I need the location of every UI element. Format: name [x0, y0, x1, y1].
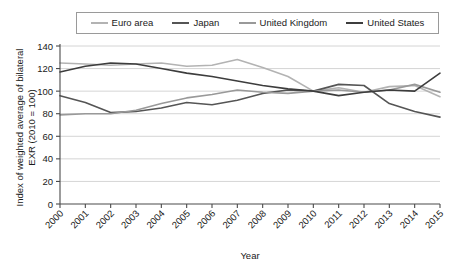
plot-area: 020406080100120140 200020012002200320042…: [0, 0, 462, 270]
x-tick-label: 2014: [397, 208, 420, 231]
x-tick-label: 2007: [220, 208, 243, 231]
y-tick-label: 20: [42, 176, 53, 187]
x-tick-label: 2012: [347, 208, 370, 231]
x-axis-ticks: 2000200120022003200420052006200720082009…: [43, 204, 446, 230]
x-tick-label: 2011: [322, 208, 344, 230]
y-tick-label: 100: [37, 86, 53, 97]
plot-svg: 020406080100120140 200020012002200320042…: [0, 0, 462, 270]
y-tick-label: 40: [42, 153, 53, 164]
x-tick-label: 2008: [245, 208, 268, 231]
y-tick-label: 0: [48, 199, 53, 210]
y-tick-label: 80: [42, 108, 53, 119]
exchange-rate-index-chart: Euro area Japan United Kingdom United St…: [0, 0, 462, 270]
x-tick-label: 2010: [296, 208, 319, 231]
x-tick-label: 2009: [271, 208, 294, 231]
x-tick-label: 2006: [195, 208, 218, 231]
y-axis-ticks: 020406080100120140: [37, 41, 60, 210]
x-tick-label: 2000: [43, 208, 66, 231]
x-tick-label: 2002: [93, 208, 116, 231]
gridlines: [60, 46, 440, 181]
x-tick-label: 2004: [144, 208, 167, 231]
x-tick-label: 2001: [68, 208, 91, 231]
x-tick-label: 2015: [423, 208, 446, 231]
y-tick-label: 120: [37, 63, 53, 74]
y-tick-label: 140: [37, 41, 53, 52]
x-tick-label: 2013: [372, 208, 395, 231]
x-tick-label: 2005: [169, 208, 192, 231]
y-tick-label: 60: [42, 131, 53, 142]
x-tick-label: 2003: [119, 208, 142, 231]
